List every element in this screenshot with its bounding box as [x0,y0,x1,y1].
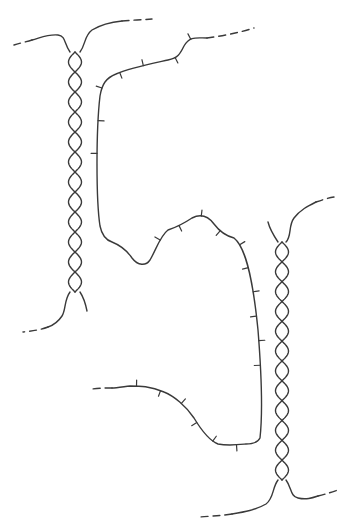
left-helix-top-right-lead [80,21,122,52]
base-tick [243,268,249,269]
left-helix-top-left-lead [32,35,70,52]
base-tick [158,391,160,397]
right-helix-bottom-left-dashed [200,514,232,517]
left-helix-top-right-dashed [122,19,152,21]
base-tick [188,34,191,39]
base-tick [216,231,220,236]
base-tick [155,237,160,240]
right-helix-bottom-right-dashed [318,490,338,496]
left-helix-bottom-left-lead [48,292,70,327]
dna-diagram [0,0,350,528]
left-double-helix [14,19,152,332]
right-helix-top-left-lead [268,222,278,242]
base-tick [192,423,197,426]
base-tick [213,436,217,441]
base-tick [142,60,143,66]
base-tick [179,226,182,231]
base-tick [201,210,202,216]
right-helix-bottom-right-lead [286,480,318,499]
left-helix-top-left-dashed [14,40,32,45]
left-helix-bottom-right-lead [80,292,87,311]
single-strand-loop [91,28,265,451]
base-tick [181,399,185,403]
right-helix-bottom-left-lead [232,480,278,514]
base-tick [175,58,178,63]
right-double-helix [200,197,338,517]
base-tick [240,242,245,245]
loop-top-dashed [207,28,254,38]
base-tick [120,73,122,79]
right-helix-top-dashed [316,197,334,202]
loop-strand [97,38,261,445]
base-tick [96,86,102,88]
base-tick [251,316,257,317]
base-tick [253,291,259,292]
loop-bottom-dashed [92,388,112,389]
right-helix-top-right-lead [286,202,316,242]
left-helix-bottom-left-dashed [23,327,48,332]
